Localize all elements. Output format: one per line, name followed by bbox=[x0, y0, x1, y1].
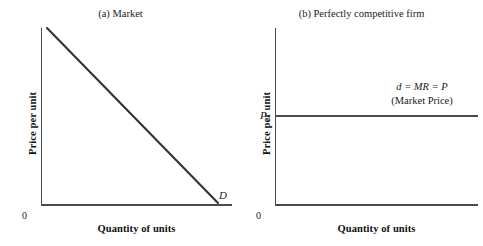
firm-curve-annotation: d = MR = P (Market Price) bbox=[366, 80, 478, 107]
firm-x-axis-label: Quantity of units bbox=[275, 223, 478, 234]
firm-x-axis bbox=[275, 204, 478, 206]
panel-firm-title: (b) Perfectly competitive firm bbox=[241, 7, 482, 20]
market-demand-curve-label: D bbox=[219, 190, 227, 201]
panel-firm: (b) Perfectly competitive firm 0 P1 d = … bbox=[241, 0, 482, 246]
firm-marginal-revenue-line bbox=[275, 115, 478, 117]
market-x-axis-label: Quantity of units bbox=[41, 223, 232, 234]
firm-origin-label: 0 bbox=[256, 211, 261, 221]
market-demand-curve bbox=[47, 28, 218, 203]
firm-y-axis bbox=[275, 28, 276, 206]
panel-market: (a) Market 0 D Price per unit Quantity o… bbox=[0, 0, 241, 246]
firm-curve-annotation-equation: d = MR = P bbox=[366, 80, 478, 94]
firm-curve-annotation-caption: (Market Price) bbox=[366, 94, 478, 108]
market-y-axis-label: Price per unit bbox=[27, 92, 38, 155]
figure-container: (a) Market 0 D Price per unit Quantity o… bbox=[0, 0, 483, 246]
firm-y-axis-label: Price per unit bbox=[261, 92, 272, 155]
